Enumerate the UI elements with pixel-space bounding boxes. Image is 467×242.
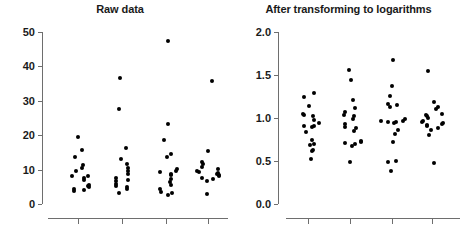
data-point	[126, 172, 130, 176]
data-point	[343, 110, 347, 114]
data-point	[205, 179, 209, 183]
data-point	[158, 170, 162, 174]
x-axis-line-raw	[48, 218, 228, 219]
data-point	[200, 160, 204, 164]
y-axis-label-raw-2: 20	[0, 129, 35, 141]
panel-log-data: After transforming to logarithms 0.00.51…	[230, 0, 467, 242]
data-point	[210, 79, 214, 83]
y-tick-raw-0	[38, 204, 42, 205]
data-point	[311, 114, 315, 118]
y-tick-log-4	[274, 32, 278, 33]
data-point	[205, 192, 209, 196]
data-point	[126, 166, 130, 170]
data-point	[354, 126, 358, 130]
data-point	[343, 122, 347, 126]
data-point	[389, 169, 393, 173]
data-point	[126, 178, 130, 182]
y-axis-label-log-4: 2.0	[230, 26, 271, 38]
data-point	[388, 94, 392, 98]
y-axis-line-log	[278, 32, 279, 204]
data-point	[395, 103, 399, 107]
x-axis-line-log	[286, 218, 460, 219]
data-point	[125, 185, 129, 189]
x-tick-log-0	[308, 219, 309, 224]
data-point	[403, 117, 407, 121]
y-tick-log-3	[274, 75, 278, 76]
panel-raw-data: Raw data 01020304050	[0, 0, 240, 242]
data-point	[119, 157, 123, 161]
data-point	[391, 58, 395, 62]
data-point	[162, 138, 166, 142]
data-point	[386, 102, 390, 106]
y-tick-log-2	[274, 118, 278, 119]
y-tick-raw-2	[38, 135, 42, 136]
data-point	[347, 68, 351, 72]
data-point	[425, 123, 429, 127]
x-tick-log-3	[432, 219, 433, 224]
data-point	[352, 114, 356, 118]
data-point	[310, 138, 314, 142]
x-tick-raw-3	[208, 219, 209, 224]
data-point	[117, 191, 121, 195]
data-point	[175, 167, 179, 171]
y-tick-raw-5	[38, 32, 42, 33]
data-point	[386, 120, 390, 124]
data-point	[424, 113, 428, 117]
y-axis-label-log-1: 0.5	[230, 155, 271, 167]
data-point	[124, 146, 128, 150]
panel-title-raw: Raw data	[0, 3, 240, 15]
data-point	[206, 149, 210, 153]
data-point	[170, 191, 174, 195]
data-point	[311, 148, 315, 152]
data-point	[158, 187, 162, 191]
data-point	[390, 84, 394, 88]
y-tick-raw-1	[38, 170, 42, 171]
data-point	[216, 167, 220, 171]
data-point	[80, 148, 84, 152]
data-point	[81, 163, 85, 167]
data-point	[353, 142, 357, 146]
data-point	[216, 171, 220, 175]
x-tick-log-1	[350, 219, 351, 224]
data-point	[421, 119, 425, 123]
y-axis-label-raw-0: 0	[0, 198, 35, 210]
y-axis-label-raw-5: 50	[0, 26, 35, 38]
y-axis-label-raw-1: 10	[0, 164, 35, 176]
data-point	[82, 188, 86, 192]
data-point	[211, 177, 215, 181]
y-tick-raw-4	[38, 66, 42, 67]
x-tick-raw-1	[122, 219, 123, 224]
data-point	[351, 98, 355, 102]
y-tick-log-0	[274, 204, 278, 205]
data-point	[394, 159, 398, 163]
y-axis-label-log-0: 0.0	[230, 198, 271, 210]
data-point	[304, 130, 308, 134]
data-point	[87, 183, 91, 187]
data-point	[312, 91, 316, 95]
panel-title-log: After transforming to logarithms	[230, 3, 467, 15]
data-point	[359, 139, 363, 143]
data-point	[432, 161, 436, 165]
data-point	[317, 121, 321, 125]
data-point	[195, 169, 199, 173]
x-tick-raw-0	[78, 219, 79, 224]
data-point	[159, 190, 163, 194]
data-point	[386, 160, 390, 164]
y-axis-label-log-3: 1.5	[230, 69, 271, 81]
data-point	[169, 152, 173, 156]
data-point	[393, 132, 397, 136]
data-point	[312, 142, 316, 146]
data-point	[427, 133, 431, 137]
y-axis-label-raw-3: 30	[0, 95, 35, 107]
data-point	[166, 39, 170, 43]
data-point	[73, 155, 77, 159]
data-point	[440, 112, 444, 116]
data-point	[441, 121, 445, 125]
y-tick-raw-3	[38, 101, 42, 102]
data-point	[309, 157, 313, 161]
data-point	[166, 122, 170, 126]
data-point	[169, 177, 173, 181]
data-point	[117, 107, 121, 111]
data-point	[348, 160, 352, 164]
y-tick-log-1	[274, 161, 278, 162]
